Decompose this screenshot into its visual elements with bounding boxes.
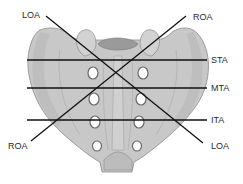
ita-label: ITA: [211, 115, 224, 125]
sacrum-axes-diagram: LOA ROA STA MTA ITA ROA LOA: [0, 0, 243, 184]
loa-bottom-label: LOA: [211, 141, 229, 151]
roa-top-label: ROA: [193, 12, 213, 22]
roa-bottom-label: ROA: [8, 141, 28, 151]
loa-top-label: LOA: [22, 10, 40, 20]
sta-label: STA: [211, 55, 228, 65]
mta-label: MTA: [211, 83, 229, 93]
sacrum-illustration: [0, 0, 243, 184]
